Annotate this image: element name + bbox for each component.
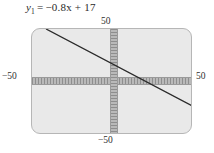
plot-area	[32, 29, 192, 134]
axis-label-left: −50	[2, 71, 17, 81]
graph-figure: y1=−0.8x + 17 50 −50 −50 50	[0, 0, 214, 153]
axis-label-top: 50	[101, 16, 111, 26]
viewing-window-panel	[31, 28, 192, 134]
axis-label-bottom: −50	[98, 135, 113, 145]
equation-caption: y1=−0.8x + 17	[26, 1, 96, 16]
axis-label-right: 50	[196, 71, 206, 81]
equation-relation: =	[35, 1, 45, 13]
equation-expression: −0.8x + 17	[45, 1, 95, 13]
line-plot	[46, 29, 191, 105]
